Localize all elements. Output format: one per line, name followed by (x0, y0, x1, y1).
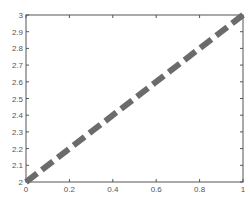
x-tick-label: 0 (24, 185, 29, 194)
y-tick-label: 2.7 (12, 61, 24, 70)
y-tick-label: 2.6 (12, 78, 24, 87)
y-tick-label: 2 (19, 178, 24, 187)
data-line (26, 15, 243, 182)
y-tick-label: 2.4 (12, 111, 24, 120)
y-tick-label: 2.3 (12, 128, 24, 137)
y-tick-label: 2.8 (12, 44, 24, 53)
line-chart: 00.20.40.60.8122.12.22.32.42.52.62.72.82… (0, 0, 251, 199)
x-tick-label: 0.4 (107, 185, 119, 194)
x-tick-label: 0.2 (64, 185, 76, 194)
plot-area: 00.20.40.60.8122.12.22.32.42.52.62.72.82… (12, 11, 246, 194)
y-tick-label: 2.5 (12, 95, 24, 104)
y-tick-label: 2.2 (12, 145, 24, 154)
y-tick-label: 2.1 (12, 161, 24, 170)
x-tick-label: 0.6 (151, 185, 163, 194)
y-tick-label: 3 (19, 11, 24, 20)
y-tick-label: 2.9 (12, 28, 24, 37)
x-tick-label: 0.8 (194, 185, 206, 194)
x-tick-label: 1 (241, 185, 246, 194)
